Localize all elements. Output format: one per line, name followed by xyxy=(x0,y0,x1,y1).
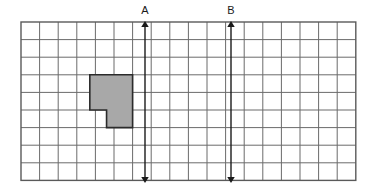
grid-lines xyxy=(21,22,356,180)
arrow-labels-layer: AB xyxy=(141,4,234,16)
shaded-polygon xyxy=(90,75,133,128)
arrow-b-label: B xyxy=(227,4,234,16)
grid-figure: AB xyxy=(0,0,374,195)
diagram-canvas: AB xyxy=(0,0,374,195)
arrow-a-label: A xyxy=(141,4,149,16)
